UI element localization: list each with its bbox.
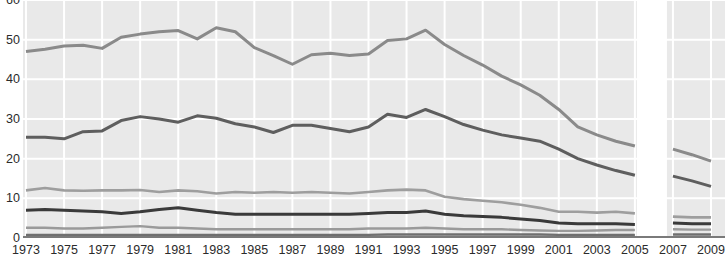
plot-area [23, 0, 725, 238]
series-4-line-segment-2 [673, 223, 711, 224]
x-tick-label: 1981 [164, 244, 192, 257]
x-tick-label: 1987 [278, 244, 306, 257]
x-tick-label: 1979 [126, 244, 154, 257]
x-tick-label: 2009 [697, 244, 725, 257]
x-tick-label: 2005 [621, 244, 649, 257]
x-tick-label: 1983 [202, 244, 230, 257]
x-tick-label: 1985 [240, 244, 268, 257]
x-tick-label: 1975 [50, 244, 78, 257]
x-tick-label: 1989 [317, 244, 345, 257]
line-chart-svg [23, 0, 725, 238]
x-tick-label: 1991 [355, 244, 383, 257]
y-tick-label: 50 [6, 34, 20, 47]
x-tick-label: 1993 [393, 244, 421, 257]
x-tick-label: 2003 [583, 244, 611, 257]
y-tick-label: 30 [6, 113, 20, 126]
chart-container: 0102030405060 19731975197719791981198319… [0, 0, 725, 268]
x-tick-label: 2007 [659, 244, 687, 257]
y-tick-label: 20 [6, 153, 20, 166]
y-tick-label: 60 [6, 0, 20, 7]
series-2-line-segment-2 [673, 176, 711, 186]
y-tick-label: 40 [6, 73, 20, 86]
x-tick-label: 1997 [469, 244, 497, 257]
data-break-band [637, 0, 667, 238]
y-tick-label: 10 [6, 192, 20, 205]
series-3-line-segment-2 [673, 217, 711, 218]
x-tick-label: 1977 [88, 244, 116, 257]
caption-fragment [0, 256, 725, 268]
x-tick-label: 2001 [545, 244, 573, 257]
x-tick-label: 1999 [507, 244, 535, 257]
x-tick-label: 1973 [12, 244, 40, 257]
x-tick-label: 1995 [431, 244, 459, 257]
y-axis: 0102030405060 [0, 0, 23, 245]
